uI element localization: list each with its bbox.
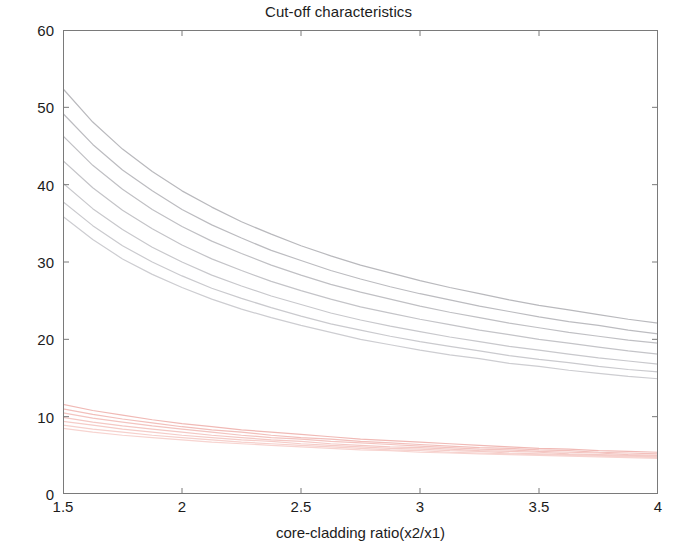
chart-title: Cut-off characteristics bbox=[0, 3, 677, 20]
x-tick-label: 4 bbox=[654, 498, 662, 515]
x-tick-label: 1.5 bbox=[53, 498, 74, 515]
y-tick-label: 20 bbox=[14, 331, 54, 348]
figure-canvas: Cut-off characteristics 0102030405060 1.… bbox=[0, 0, 677, 550]
y-tick-label: 40 bbox=[14, 176, 54, 193]
y-tick-label: 30 bbox=[14, 254, 54, 271]
x-tick-label: 3 bbox=[416, 498, 424, 515]
x-tick-label: 3.5 bbox=[529, 498, 550, 515]
x-tick-labels: 1.522.533.54 bbox=[0, 498, 677, 522]
y-tick-label: 50 bbox=[14, 99, 54, 116]
x-tick-label: 2.5 bbox=[291, 498, 312, 515]
y-tick-labels: 0102030405060 bbox=[0, 30, 677, 494]
x-tick-label: 2 bbox=[178, 498, 186, 515]
y-tick-label: 60 bbox=[14, 22, 54, 39]
y-tick-label: 10 bbox=[14, 408, 54, 425]
x-axis-label: core-cladding ratio(x2/x1) bbox=[63, 524, 658, 541]
